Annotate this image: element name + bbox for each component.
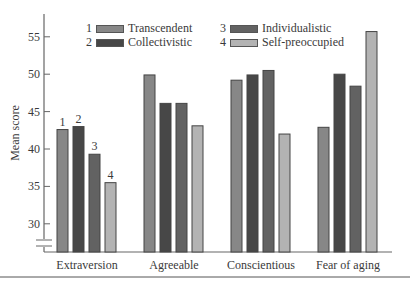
bar-individualistic-conscientious: [263, 70, 274, 252]
y-tick-label: 50: [28, 67, 40, 81]
bar-self-preoccupied-fear-of-aging: [366, 32, 377, 252]
bar-transcendent-agreeable: [144, 75, 155, 252]
legend-number: 2: [86, 35, 96, 50]
y-tick-label: 30: [28, 217, 40, 231]
legend-label: Collectivistic: [128, 35, 192, 50]
y-axis-label: Mean score: [8, 105, 22, 161]
bar-self-preoccupied-agreeable: [192, 126, 203, 252]
bar-collectivistic-conscientious: [247, 75, 258, 252]
x-category-label: Agreeable: [149, 258, 198, 272]
legend-swatch-collectivistic: [96, 39, 124, 47]
x-category-label: Fear of aging: [316, 258, 380, 272]
bar-number-label: 1: [60, 115, 66, 129]
bar-self-preoccupied-extraversion: [105, 183, 116, 252]
bar-collectivistic-agreeable: [160, 103, 171, 252]
legend-swatch-self-preoccupied: [230, 39, 258, 47]
legend-number: 1: [86, 21, 96, 36]
bar-self-preoccupied-conscientious: [279, 134, 290, 252]
bar-collectivistic-extraversion: [73, 127, 84, 252]
legend-number: 3: [220, 21, 230, 36]
bar-individualistic-fear-of-aging: [350, 86, 361, 252]
y-tick-label: 55: [28, 30, 40, 44]
legend-swatch-transcendent: [96, 25, 124, 33]
bar-transcendent-extraversion: [57, 130, 68, 252]
bars: [57, 32, 377, 252]
legend-label: Self-preoccupied: [262, 35, 344, 50]
bar-transcendent-fear-of-aging: [318, 127, 329, 252]
bar-chart: 303540455055Mean score1234ExtraversionAg…: [0, 0, 410, 284]
legend-label: Transcendent: [128, 21, 192, 36]
x-category-label: Extraversion: [56, 258, 117, 272]
y-tick-label: 45: [28, 105, 40, 119]
bar-collectivistic-fear-of-aging: [334, 74, 345, 252]
legend-label: Individualistic: [262, 21, 331, 36]
legend-swatch-individualistic: [230, 25, 258, 33]
bar-individualistic-agreeable: [176, 103, 187, 252]
legend-number: 4: [220, 35, 230, 50]
bar-number-label: 2: [76, 112, 82, 126]
bar-number-label: 3: [92, 139, 98, 153]
bar-number-label: 4: [108, 168, 114, 182]
bar-transcendent-conscientious: [231, 80, 242, 252]
bar-individualistic-extraversion: [89, 154, 100, 252]
x-category-label: Conscientious: [227, 258, 295, 272]
y-tick-label: 40: [28, 142, 40, 156]
y-tick-label: 35: [28, 179, 40, 193]
